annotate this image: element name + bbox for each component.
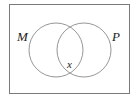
- venn-diagram: M P x: [0, 0, 135, 99]
- set-m-label: M: [16, 29, 29, 44]
- intersection-label: x: [66, 58, 72, 70]
- set-p-circle: [57, 23, 111, 77]
- universal-set-frame: [10, 5, 130, 94]
- set-p-label: P: [111, 29, 120, 44]
- set-m-circle: [29, 23, 83, 77]
